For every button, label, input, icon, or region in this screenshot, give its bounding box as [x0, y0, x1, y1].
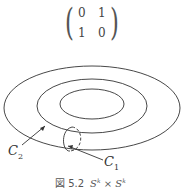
c1-pointer — [68, 146, 103, 160]
middle-ellipse — [37, 79, 147, 133]
inner-ellipse — [60, 89, 124, 119]
figure-caption: 図 5.2Sk × Sk — [55, 175, 126, 190]
torus-diagram — [0, 0, 183, 194]
label-c2: C2 — [8, 143, 23, 161]
label-c1: C1 — [104, 154, 119, 172]
